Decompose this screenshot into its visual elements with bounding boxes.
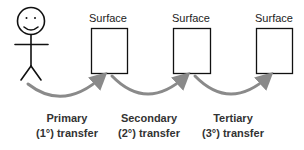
tertiary-transfer-label-line2: (3°) transfer (202, 127, 265, 139)
left-eye-icon (26, 17, 28, 19)
secondary-transfer-arrow-icon (112, 76, 186, 94)
surface-3: Surface (255, 12, 293, 74)
surface-3-rect (257, 29, 293, 74)
surface-3-label: Surface (255, 12, 293, 24)
transfer-diagram: Surface Surface Surface Primary (1°) tra… (0, 0, 304, 150)
tertiary-transfer-label-line1: Tertiary (213, 112, 253, 124)
secondary-transfer-label: Secondary (2°) transfer (118, 112, 181, 139)
secondary-transfer-label-line1: Secondary (121, 112, 178, 124)
surface-2-label: Surface (172, 12, 210, 24)
primary-transfer-arrow-icon (28, 76, 103, 96)
primary-transfer-label-line1: Primary (47, 112, 89, 124)
surface-2: Surface (172, 12, 210, 74)
tertiary-transfer-arrow-icon (195, 76, 269, 94)
primary-transfer-label: Primary (1°) transfer (36, 112, 99, 139)
right-leg-line (31, 66, 41, 80)
right-eye-icon (34, 17, 36, 19)
left-leg-line (21, 66, 31, 80)
stick-figure-icon (15, 8, 48, 81)
tertiary-transfer-label: Tertiary (3°) transfer (202, 112, 265, 139)
primary-transfer-label-line2: (1°) transfer (36, 127, 99, 139)
smile-icon (24, 27, 38, 30)
surface-1-rect (92, 29, 128, 74)
secondary-transfer-label-line2: (2°) transfer (118, 127, 181, 139)
surface-1: Surface (89, 12, 127, 74)
surface-2-rect (174, 29, 211, 74)
surface-1-label: Surface (89, 12, 127, 24)
